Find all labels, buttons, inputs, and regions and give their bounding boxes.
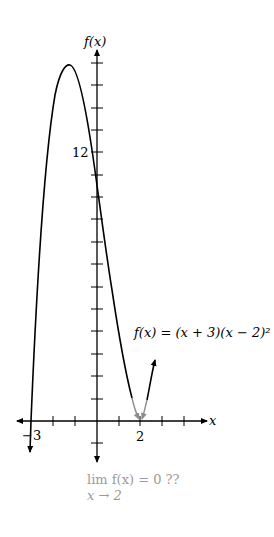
function-graph: f(x) x 12 −3 2 f(x) = (x + 3)(x − 2)² bbox=[0, 0, 274, 537]
y-axis bbox=[91, 50, 103, 462]
function-label: f(x) = (x + 3)(x − 2)² bbox=[133, 325, 270, 340]
x-axis-label: x bbox=[209, 413, 217, 428]
curve-right-branch bbox=[147, 360, 155, 400]
y-axis-label: f(x) bbox=[83, 34, 106, 49]
approach-from-left-arrow bbox=[132, 398, 139, 419]
tick-label-neg3: −3 bbox=[22, 428, 41, 443]
limit-subscript: x → 2 bbox=[87, 488, 180, 504]
limit-annotation: lim f(x) = 0 ?? x → 2 bbox=[87, 472, 180, 504]
tick-label-2: 2 bbox=[136, 429, 144, 444]
function-curve bbox=[31, 65, 132, 421]
tick-label-12: 12 bbox=[72, 145, 89, 160]
approach-from-right-arrow bbox=[142, 400, 147, 419]
limit-main-text: lim f(x) = 0 ?? bbox=[87, 472, 180, 487]
x-axis bbox=[17, 416, 207, 426]
